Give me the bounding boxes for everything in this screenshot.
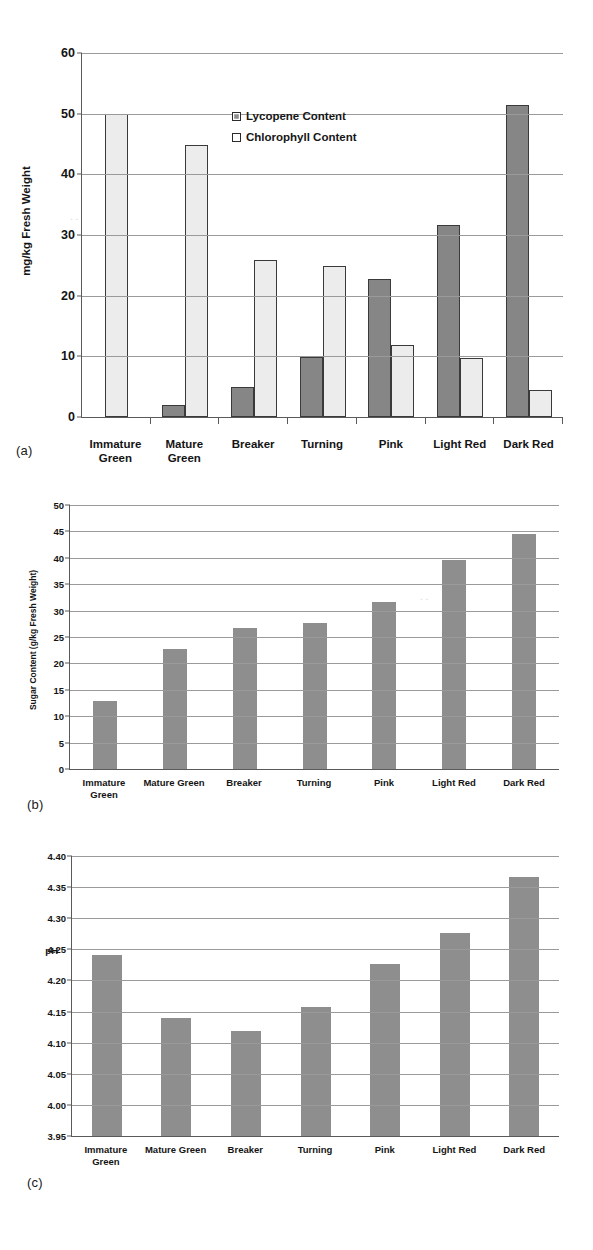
y-tick-label: 60 [61,46,82,60]
panel-b-x-axis-labels: ImmatureGreenMature GreenBreakerTurningP… [69,777,559,800]
y-tick-label: 4.20 [48,975,73,986]
bar [162,405,185,417]
x-tick-label: Breaker [219,437,288,465]
y-tick-label: 15 [53,684,70,695]
y-tick-label: 50 [53,500,70,511]
panel-a-label: (a) [16,443,33,458]
gridline [70,716,559,717]
panel-a-plot-area: 0102030405060 [81,53,563,418]
panel-c-label: (c) [27,1175,43,1190]
category-tick [357,417,426,424]
chlorophyll-swatch-icon [232,133,241,142]
x-tick-label: Turning [279,777,349,800]
bar [300,357,323,417]
bar [372,602,396,769]
gridline [72,856,559,857]
lycopene-swatch-icon [232,112,241,121]
bar [442,560,466,769]
category-tick [426,417,495,424]
bar [509,877,539,1136]
bar-group [281,856,351,1136]
bar [301,1007,331,1136]
gridline [70,743,559,744]
gridline [82,174,563,175]
bar [254,260,277,417]
category-tick [219,417,288,424]
bar [161,1018,191,1136]
y-tick-label: 4.40 [48,851,73,862]
x-tick-label: Light Red [419,777,489,800]
y-tick-label: 20 [61,289,82,303]
legend-item-lycopene: Lycopene Content [232,110,357,122]
gridline [72,949,559,950]
y-tick-label: 30 [61,228,82,242]
bar [437,225,460,417]
y-tick-label: 4.15 [48,1006,73,1017]
panel-c-bars [72,856,559,1136]
gridline [70,690,559,691]
x-tick-label-line2: Green [150,451,219,465]
panel-a-category-ticks [82,417,563,424]
gridline [70,584,559,585]
x-tick-label: ImmatureGreen [69,777,139,800]
gridline [72,1074,559,1075]
panel-b-label: (b) [27,797,44,812]
bar [506,105,529,417]
bar [303,623,327,769]
x-tick-label: Pink [349,777,419,800]
y-tick-label: 40 [53,552,70,563]
panel-a-x-axis-labels: ImmatureGreenMatureGreenBreakerTurningPi… [81,437,563,465]
y-tick-label: 4.30 [48,913,73,924]
legend-item-chlorophyll: Chlorophyll Content [232,131,357,143]
gridline [82,235,563,236]
bar [370,964,400,1136]
x-tick-label-line2: Green [71,1156,141,1168]
y-tick-label: 40 [61,167,82,181]
x-tick-label: Pink [356,437,425,465]
bar [368,279,391,417]
bar [233,628,257,770]
y-tick-label: 4.25 [48,944,73,955]
x-tick-label: Light Red [425,437,494,465]
gridline [70,663,559,664]
panel-b-plot-area: 05101520253035404550 [69,505,559,770]
gridline [72,1105,559,1106]
gridline [82,356,563,357]
gridline [72,887,559,888]
category-tick [82,417,151,424]
category-tick [288,417,357,424]
y-tick-label: 0 [59,764,70,775]
x-tick-label: Pink [350,1144,420,1167]
bar [460,358,483,417]
y-tick-label: 25 [53,632,70,643]
x-tick-label: Dark Red [494,437,563,465]
y-tick-label: 5 [59,737,70,748]
category-tick [494,417,563,424]
x-tick-label: ImmatureGreen [71,1144,141,1167]
y-tick-label: 3.95 [48,1131,73,1142]
gridline [70,531,559,532]
bar [529,390,552,417]
bar [105,114,128,417]
panel-c-x-axis-labels: ImmatureGreenMature GreenBreakerTurningP… [71,1144,559,1167]
y-tick-label: 30 [53,605,70,616]
category-tick [151,417,220,424]
panel-c-plot-area: 3.954.004.054.104.154.204.254.304.354.40 [71,856,559,1137]
panel-a-legend: Lycopene Content Chlorophyll Content [232,110,357,152]
bar-group [350,856,420,1136]
gridline [72,918,559,919]
panel-b-y-axis-label: Sugar Content (g/kg Fresh Weight) [28,555,38,725]
x-tick-label: Turning [288,437,357,465]
gridline [70,637,559,638]
gridline [82,53,563,54]
bar-group [142,856,212,1136]
x-tick-label: Breaker [210,1144,280,1167]
chart-panel-a: (a) mg/kg Fresh Weight 0102030405060 Lyc… [0,0,593,490]
gridline [72,980,559,981]
y-tick-label: 45 [53,526,70,537]
legend-label-chlorophyll: Chlorophyll Content [246,131,357,143]
panel-a-y-axis-label: mg/kg Fresh Weight [20,151,32,291]
chart-panel-c: (c) pH 3.954.004.054.104.154.204.254.304… [0,840,593,1250]
bar [185,145,208,417]
bar [231,387,254,417]
